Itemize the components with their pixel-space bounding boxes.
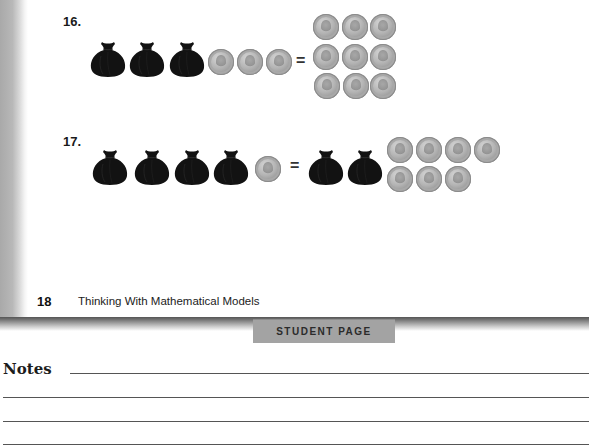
money-bag-icon xyxy=(168,40,206,78)
coin-icon xyxy=(208,49,234,75)
money-bag-icon xyxy=(307,148,345,186)
coin-icon xyxy=(370,73,396,99)
money-bag-icon xyxy=(173,148,211,186)
coin-icon xyxy=(314,73,340,99)
notes-line xyxy=(70,373,589,374)
coin-icon xyxy=(416,137,442,163)
coin-icon xyxy=(387,137,413,163)
coin-icon xyxy=(370,44,396,70)
money-bag-icon xyxy=(89,40,127,78)
equals-sign: = xyxy=(296,53,305,69)
coin-icon xyxy=(445,166,471,192)
coin-icon xyxy=(474,137,500,163)
coin-icon xyxy=(313,14,339,40)
coin-icon xyxy=(255,156,281,182)
notes-heading: Notes xyxy=(3,360,52,378)
coin-icon xyxy=(343,73,369,99)
coin-icon xyxy=(445,137,471,163)
notes-line xyxy=(3,421,589,422)
money-bag-icon xyxy=(212,148,250,186)
notes-line xyxy=(3,397,589,398)
problem-17-number: 17. xyxy=(63,134,81,149)
problem-16-number: 16. xyxy=(63,14,81,29)
coin-icon xyxy=(416,166,442,192)
money-bag-icon xyxy=(346,148,384,186)
coin-icon xyxy=(313,44,339,70)
coin-icon xyxy=(266,49,292,75)
student-page-label: STUDENT PAGE xyxy=(276,326,372,337)
coin-icon xyxy=(342,14,368,40)
equals-sign: = xyxy=(290,158,299,174)
page-number: 18 xyxy=(37,294,51,309)
coin-icon xyxy=(387,166,413,192)
book-title: Thinking With Mathematical Models xyxy=(78,295,260,307)
textbook-page: 16. = 17. = 18 Thinking With Mathematica… xyxy=(0,0,589,319)
money-bag-icon xyxy=(128,40,166,78)
coin-icon xyxy=(342,44,368,70)
student-page-tab: STUDENT PAGE xyxy=(253,319,395,343)
coin-icon xyxy=(370,14,396,40)
page-binding-shadow xyxy=(0,0,28,319)
money-bag-icon xyxy=(91,148,129,186)
money-bag-icon xyxy=(133,148,171,186)
coin-icon xyxy=(237,49,263,75)
